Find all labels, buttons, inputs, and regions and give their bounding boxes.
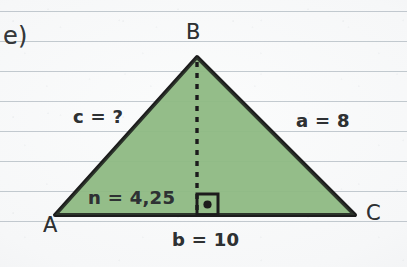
right-angle-center-dot-icon (203, 200, 211, 208)
side-length-label-b: b = 10 (172, 231, 239, 249)
segment-length-label-n: n = 4,25 (88, 189, 175, 207)
vertex-label-c: C (366, 203, 381, 224)
vertex-label-b: B (186, 22, 201, 43)
side-length-label-c: c = ? (73, 108, 123, 126)
vertex-label-a: A (43, 215, 58, 236)
exercise-label: e) (3, 24, 28, 48)
side-length-label-a: a = 8 (296, 112, 350, 130)
figure-canvas: e) B A C c = ? a = 8 n = 4,25 b = 10 (0, 0, 407, 267)
triangle-diagram (0, 0, 407, 267)
